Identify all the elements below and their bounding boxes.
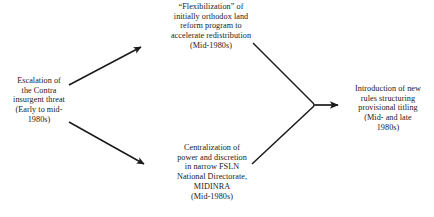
node-line: National Directorate, <box>150 172 274 182</box>
node-line: reform program to <box>148 21 274 31</box>
node-centralization-of-power: Centralization of power and discretion i… <box>150 143 274 201</box>
node-introduction-of-new-rules: Introduction of new rules structuring pr… <box>342 84 434 133</box>
node-line: insurgent threat <box>0 95 78 105</box>
arrow-escalation-to-centralization <box>69 122 144 164</box>
node-line: Centralization of <box>150 143 274 153</box>
node-line: MIDINRA <box>150 182 274 192</box>
node-line: in narrow FSLN <box>150 162 274 172</box>
node-line: rules structuring <box>342 94 434 104</box>
node-line: (Mid-1980s) <box>150 192 274 202</box>
node-line: 1980s) <box>342 123 434 133</box>
arrow-flexibilization-to-junction <box>253 43 314 104</box>
node-escalation-of-contra-threat: Escalation of the Contra insurgent threa… <box>0 76 78 125</box>
node-line: (Early to mid- <box>0 105 78 115</box>
arrow-escalation-to-flexibilization <box>69 47 141 85</box>
node-line: Escalation of <box>0 76 78 86</box>
node-line: initially orthodox land <box>148 12 274 22</box>
node-line: “Flexibilization” of <box>148 2 274 12</box>
node-line: Introduction of new <box>342 84 434 94</box>
node-line: (Mid- and late <box>342 113 434 123</box>
node-line: (Mid-1980s) <box>148 41 274 51</box>
node-line: accelerate redistribution <box>148 31 274 41</box>
node-line: provisional titling <box>342 103 434 113</box>
flow-diagram: Escalation of the Contra insurgent threa… <box>0 0 434 217</box>
node-line: 1980s) <box>0 115 78 125</box>
node-line: the Contra <box>0 86 78 96</box>
node-line: power and discretion <box>150 153 274 163</box>
node-flexibilization-of-land-reform: “Flexibilization” of initially orthodox … <box>148 2 274 51</box>
